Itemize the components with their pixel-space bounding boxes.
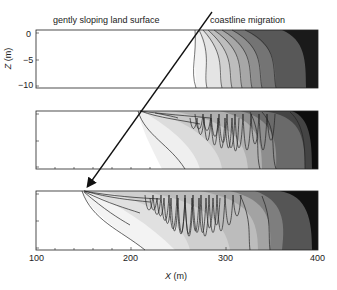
panel-t140 xyxy=(36,111,318,169)
panel-t80 xyxy=(36,30,318,88)
figure-graphics xyxy=(0,0,337,290)
panel-t200 xyxy=(36,191,318,250)
